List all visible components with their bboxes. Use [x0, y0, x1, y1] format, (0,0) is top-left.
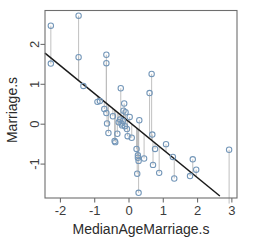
- x-axis-tick-labels: -2-10123: [55, 203, 236, 218]
- x-tick-label: 2: [194, 203, 201, 218]
- y-axis-ticks: [41, 44, 46, 164]
- y-tick-label: 0: [28, 121, 43, 128]
- data-points-group: [48, 13, 232, 196]
- residual-segments-group: [51, 16, 229, 204]
- regression-line: [45, 53, 220, 196]
- scatter-plot-figure: -2-10123 210-1 MedianAgeMarriage.s Marri…: [0, 0, 254, 241]
- y-axis-tick-labels: 210-1: [28, 41, 43, 170]
- regression-line-group: [45, 53, 220, 196]
- x-tick-label: 0: [125, 203, 132, 218]
- y-tick-label: -1: [28, 158, 43, 170]
- x-tick-label: 1: [160, 203, 167, 218]
- x-tick-label: -2: [55, 203, 67, 218]
- frame-rect: [45, 11, 237, 199]
- y-tick-label: 1: [28, 81, 43, 88]
- plot-frame: [45, 11, 237, 199]
- plot-canvas: -2-10123 210-1 MedianAgeMarriage.s Marri…: [0, 0, 254, 241]
- y-tick-label: 2: [28, 41, 43, 48]
- x-tick-label: 3: [228, 203, 235, 218]
- x-axis-ticks: [60, 198, 231, 203]
- x-tick-label: -1: [89, 203, 101, 218]
- x-axis-title: MedianAgeMarriage.s: [73, 221, 210, 237]
- y-axis-title: Marriage.s: [4, 77, 20, 143]
